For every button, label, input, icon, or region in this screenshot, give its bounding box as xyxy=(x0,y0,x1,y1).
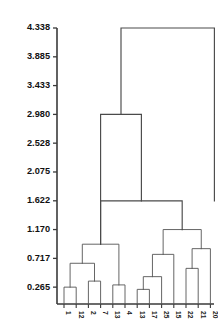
dendrogram-link xyxy=(163,230,201,255)
dendrogram-link xyxy=(101,201,183,244)
y-tick-label-3: 2.980 xyxy=(27,109,50,119)
dendrogram-link xyxy=(88,281,100,304)
y-axis xyxy=(57,28,214,304)
dendrogram-link xyxy=(70,263,94,287)
dendrogram-link xyxy=(192,249,210,304)
leaf-labels-group: 1122713413172515222120 xyxy=(65,311,218,319)
dendrogram-link xyxy=(113,285,125,304)
leaf-label-11: 21 xyxy=(200,311,207,319)
leaf-label-3: 7 xyxy=(102,311,109,315)
dendrogram-link xyxy=(152,254,173,304)
dendrogram-links xyxy=(64,28,214,304)
dendrogram-link xyxy=(143,277,161,304)
leaf-label-9: 15 xyxy=(175,311,182,319)
leaf-label-10: 22 xyxy=(187,311,194,319)
y-tick-label-4: 2.528 xyxy=(27,138,50,148)
y-tick-label-8: 0.717 xyxy=(27,253,50,263)
dendrogram-link xyxy=(101,114,142,244)
leaf-label-5: 4 xyxy=(126,311,133,315)
leaf-label-4: 13 xyxy=(114,311,121,319)
dendrogram-link xyxy=(137,289,149,304)
y-tick-label-5: 2.075 xyxy=(27,166,50,176)
leaf-label-0: 1 xyxy=(65,311,72,315)
leaf-label-12: 20 xyxy=(212,311,218,319)
leaf-label-2: 2 xyxy=(90,311,97,315)
y-axis-tick-labels: 4.3383.8853.4332.9802.5282.0751.6221.170… xyxy=(27,22,50,291)
y-tick-label-2: 3.433 xyxy=(27,80,50,90)
y-tick-label-9: 0.265 xyxy=(27,282,50,292)
dendrogram-figure: 4.3383.8853.4332.9802.5282.0751.6221.170… xyxy=(0,0,218,333)
dendrogram-link xyxy=(186,268,198,304)
y-tick-label-7: 1.170 xyxy=(27,224,50,234)
dendrogram-link xyxy=(82,244,119,285)
leaf-label-7: 17 xyxy=(151,311,158,319)
y-tick-label-6: 1.622 xyxy=(27,195,50,205)
leaf-label-8: 25 xyxy=(163,311,170,319)
dendrogram-link xyxy=(64,287,76,304)
y-tick-label-0: 4.338 xyxy=(27,22,50,32)
leaf-label-1: 12 xyxy=(78,311,85,319)
y-tick-label-1: 3.885 xyxy=(27,51,50,61)
dendrogram-plot: 4.3383.8853.4332.9802.5282.0751.6221.170… xyxy=(0,0,218,333)
leaf-label-6: 13 xyxy=(139,311,146,319)
